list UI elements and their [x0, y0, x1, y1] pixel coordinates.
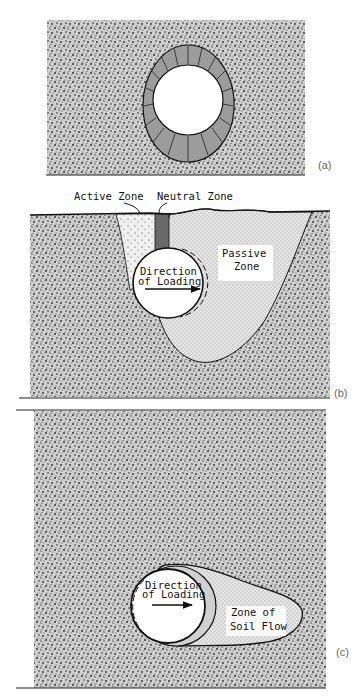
neutral-zone-label: Neutral Zone: [157, 190, 233, 202]
panel-b: Direction of Loading Passive Zone Active…: [19, 190, 347, 399]
passive-label-2: Zone: [234, 260, 259, 272]
soil-pipe-diagram: (a) Direction of Loading Passive Zone Ac…: [0, 0, 360, 699]
direction-label-2: of Loading: [138, 275, 201, 287]
pipe: [153, 65, 223, 135]
passive-label-1: Passive: [222, 247, 266, 259]
panel-c-tag: (c): [336, 646, 349, 658]
active-zone-label: Active Zone: [74, 190, 144, 202]
panel-a-tag: (a): [318, 159, 331, 171]
panel-c: Direction of Loading Zone of Soil Flow (…: [16, 410, 349, 688]
panel-b-tag: (b): [334, 387, 347, 399]
flow-zone-label-1: Zone of: [231, 606, 275, 618]
flow-zone-label-2: Soil Flow: [230, 620, 288, 632]
panel-a: (a): [46, 20, 331, 175]
direction-label-2: of Loading: [142, 588, 205, 600]
